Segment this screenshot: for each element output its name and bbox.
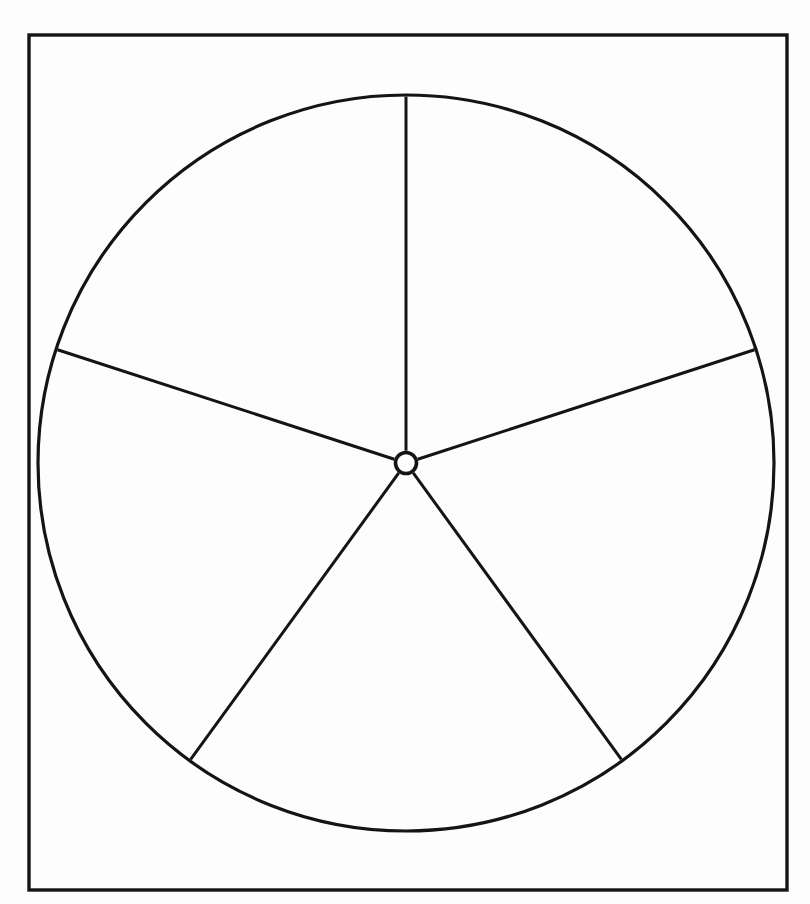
figure-canvas [0,0,810,904]
wheel-hub-circle [396,453,417,474]
five-spoke-wheel-diagram [0,0,810,904]
